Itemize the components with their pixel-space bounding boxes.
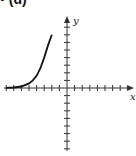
y-axis-arrow-icon — [64, 16, 70, 23]
x-axis-label: x — [130, 91, 136, 102]
y-axis-label: y — [72, 15, 79, 26]
axes — [4, 16, 134, 151]
graph: y x — [0, 0, 136, 156]
function-curve — [6, 35, 52, 88]
